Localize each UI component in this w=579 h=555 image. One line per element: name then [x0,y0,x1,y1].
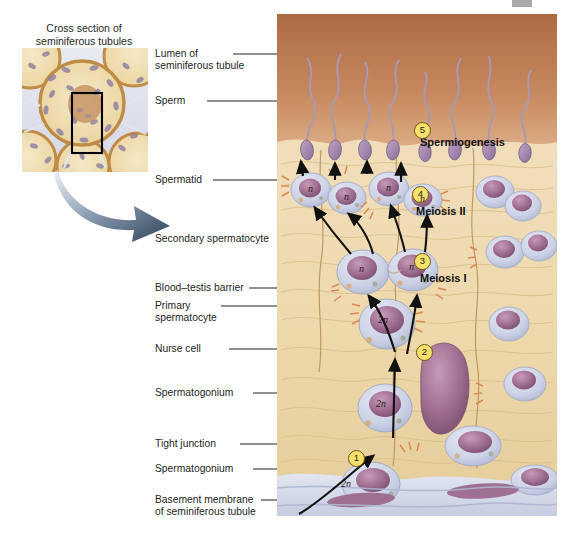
inset-title: Cross section of seminiferous tubules [8,22,160,48]
ploidy-spermatid-1: n [308,183,313,194]
label-spermatogonium-upper-line1: Spermatogonium [155,387,233,399]
label-primary-line1: Primary [155,300,217,312]
label-sperm: Sperm [155,95,185,107]
label-lumen: Lumen of seminiferous tubule [155,48,244,73]
stage-label-meiosis-2: Meiosis II [416,205,466,217]
ploidy-spermatid-4: n [420,193,425,204]
label-secondary-line1: Secondary spermatocyte [155,233,269,245]
stage-label-meiosis-1: Meiosis I [420,272,466,284]
stage-badge-1: 1 [348,450,365,467]
ploidy-secondary-right: n [409,261,414,272]
label-spermatid: Spermatid [155,174,202,186]
label-secondary-spermatocyte: Secondary spermatocyte [155,233,269,245]
label-primary-spermatocyte: Primary spermatocyte [155,300,217,325]
label-nurse-line1: Nurse cell [155,343,201,355]
ploidy-spermatogonium-lower: 2n [341,478,351,489]
label-spermatogonium-lower-line1: Spermatogonium [155,463,233,475]
stage-label-spermiogenesis: Spermiogenesis [420,136,505,148]
label-basement-line2: of seminiferous tubule [155,506,256,518]
label-lumen-line1: Lumen of [155,48,244,60]
stage-badge-3: 3 [414,253,431,270]
cross-section-inset [22,48,148,172]
label-spermatid-line1: Spermatid [155,174,202,186]
label-basement-membrane: Basement membrane of seminiferous tubule [155,494,256,519]
inset-title-line2: seminiferous tubules [8,35,160,48]
label-spermatogonium-upper: Spermatogonium [155,387,233,399]
label-spermatogonium-lower: Spermatogonium [155,463,233,475]
ploidy-spermatogonium-upper: 2n [376,398,386,409]
ploidy-secondary-left: n [359,263,364,274]
ploidy-spermatid-3: n [386,182,391,193]
label-tight-junction: Tight junction [155,438,216,450]
label-sperm-line1: Sperm [155,95,185,107]
label-blood-testis-barrier: Blood–testis barrier [155,282,244,294]
ploidy-primary-spermatocyte: 2n [378,314,388,325]
stage-badge-2: 2 [416,344,433,361]
figure-spermatogenesis: Cross section of seminiferous tubules [0,0,579,555]
ploidy-spermatid-2: n [344,191,349,202]
stage-badge-5: 5 [414,122,431,139]
label-barrier-line1: Blood–testis barrier [155,282,244,294]
label-nurse-cell: Nurse cell [155,343,201,355]
inset-title-line1: Cross section of [8,22,160,35]
label-tight-junction-line1: Tight junction [155,438,216,450]
label-basement-line1: Basement membrane [155,494,256,506]
label-primary-line2: spermatocyte [155,312,217,324]
label-lumen-line2: seminiferous tubule [155,60,244,72]
corner-artifact [512,0,532,7]
